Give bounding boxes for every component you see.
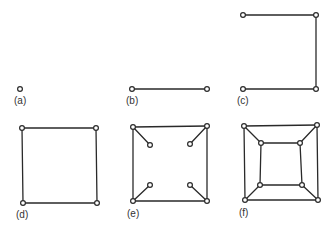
graph-edge bbox=[133, 127, 150, 145]
panel-d-edges bbox=[22, 128, 97, 203]
panel-a-label: (a) bbox=[14, 95, 26, 106]
panel-b-label: (b) bbox=[126, 95, 138, 106]
panel-d-nodes bbox=[20, 126, 100, 206]
panel-d-label: (d) bbox=[16, 209, 28, 220]
graph-edge bbox=[96, 128, 97, 203]
graph-edge bbox=[133, 126, 207, 127]
graph-vertex bbox=[148, 143, 153, 148]
graph-vertex bbox=[95, 201, 100, 206]
panel-f-label: (f) bbox=[239, 207, 248, 218]
graph-vertex bbox=[259, 141, 264, 146]
graph-vertex bbox=[316, 198, 321, 203]
graph-vertex bbox=[18, 87, 23, 92]
graph-edge bbox=[133, 185, 150, 201]
graph-vertex bbox=[243, 198, 248, 203]
graph-construction-diagram: (a) (b) (c) (d) (e) (f) bbox=[0, 0, 335, 229]
panel-a: (a) bbox=[14, 87, 26, 106]
graph-vertex bbox=[241, 87, 246, 92]
graph-vertex bbox=[130, 87, 135, 92]
panel-b: (b) bbox=[126, 87, 209, 106]
panel-e: (e) bbox=[127, 124, 209, 219]
graph-vertex bbox=[148, 183, 153, 188]
graph-vertex bbox=[300, 183, 305, 188]
graph-edge bbox=[22, 128, 23, 203]
graph-edge bbox=[302, 185, 318, 200]
graph-edge bbox=[260, 143, 261, 185]
graph-vertex bbox=[94, 126, 99, 131]
graph-edge bbox=[300, 125, 317, 143]
graph-vertex bbox=[131, 199, 136, 204]
graph-vertex bbox=[20, 126, 25, 131]
graph-vertex bbox=[188, 142, 193, 147]
graph-vertex bbox=[205, 199, 210, 204]
panel-c-label: (c) bbox=[237, 95, 249, 106]
panel-c: (c) bbox=[237, 13, 318, 106]
graph-vertex bbox=[258, 183, 263, 188]
graph-vertex bbox=[298, 141, 303, 146]
graph-edge bbox=[317, 125, 318, 200]
panel-d: (d) bbox=[16, 126, 99, 220]
graph-edge bbox=[244, 126, 261, 143]
panel-c-edges bbox=[243, 15, 316, 89]
graph-vertex bbox=[315, 123, 320, 128]
graph-edge bbox=[190, 185, 207, 201]
graph-edge bbox=[300, 143, 302, 185]
graph-vertex bbox=[188, 183, 193, 188]
graph-edge bbox=[190, 126, 207, 144]
graph-vertex bbox=[314, 13, 319, 18]
graph-vertex bbox=[131, 125, 136, 130]
graph-vertex bbox=[205, 124, 210, 129]
panel-a-nodes bbox=[18, 87, 23, 92]
graph-vertex bbox=[21, 201, 26, 206]
graph-edge bbox=[244, 125, 317, 126]
graph-vertex bbox=[241, 13, 246, 18]
panel-c-nodes bbox=[241, 13, 319, 92]
panel-e-edges bbox=[133, 126, 207, 201]
graph-vertex bbox=[242, 124, 247, 129]
graph-edge bbox=[245, 185, 260, 200]
graph-edge bbox=[244, 126, 245, 200]
panel-f-edges bbox=[244, 125, 318, 200]
panel-f: (f) bbox=[239, 123, 320, 218]
graph-vertex bbox=[314, 87, 319, 92]
graph-vertex bbox=[205, 87, 210, 92]
panel-e-label: (e) bbox=[127, 208, 139, 219]
